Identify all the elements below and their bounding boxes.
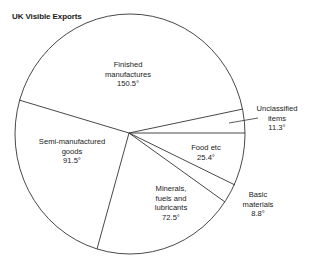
label-finished-manufactures: Finished manufactures 150.5° [105,60,151,89]
label-food: Food etc 25.4° [191,143,221,162]
boundary-finished-unclassified [129,109,243,133]
boundary-semi-finished [19,100,129,133]
label-semi-manufactured: Semi-manufactured goods 91.5° [39,137,105,166]
label-minerals-fuels: Minerals, fuels and lubricants 72.5° [155,184,188,222]
label-basic-materials: Basic materials 8.8° [243,190,274,219]
unclassified-pointer [229,118,258,123]
label-unclassified-items: Unclassified items 11.3° [257,104,298,133]
